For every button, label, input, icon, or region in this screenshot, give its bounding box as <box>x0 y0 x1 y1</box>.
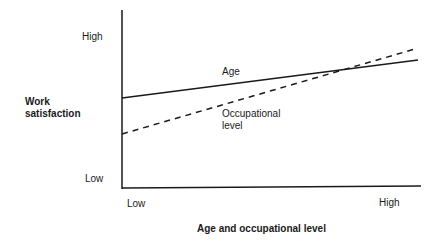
series-label-occupational-line1: Occupational <box>222 108 280 119</box>
y-tick-low: Low <box>85 173 103 184</box>
age-line <box>122 60 418 98</box>
series-label-age: Age <box>222 66 240 77</box>
y-axis-label-line1: Work <box>25 96 50 107</box>
series-label-occupational-line2: level <box>222 120 243 131</box>
x-axis <box>122 186 421 188</box>
x-tick-low: Low <box>127 198 145 209</box>
occupational-level-line <box>122 49 415 134</box>
x-axis-label: Age and occupational level <box>197 223 326 234</box>
y-tick-high: High <box>82 31 103 42</box>
x-tick-high: High <box>379 197 400 208</box>
y-axis-label-line2: satisfaction <box>25 108 81 119</box>
